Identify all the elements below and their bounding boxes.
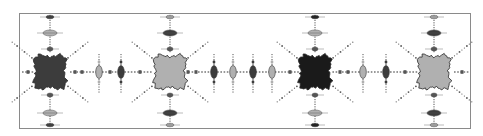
small-blob-stem [272, 57, 273, 58]
small-blob-bud [362, 80, 365, 84]
spike-dot [279, 44, 280, 45]
axis-dot [412, 71, 414, 72]
spike-dot [22, 93, 23, 94]
small-blob-stem [214, 89, 215, 90]
axis-dot [297, 71, 299, 72]
spike-dot [202, 45, 204, 47]
satellite-wing [40, 17, 60, 18]
spike-dot [464, 47, 465, 48]
small-blob-stem [233, 64, 234, 65]
small-blob-stem [233, 92, 234, 93]
spike-dot [72, 53, 73, 54]
axis-dot [374, 71, 376, 72]
satellite-wing [41, 49, 59, 50]
vertical-dot [434, 39, 435, 40]
small-blob-stem [214, 92, 215, 93]
spike-dot [454, 55, 455, 56]
spike-dot [77, 93, 78, 94]
spike-dot [403, 47, 404, 48]
spike-dot [459, 51, 461, 53]
spike-dot [350, 99, 351, 100]
small-blob-2 [118, 66, 125, 79]
spike-dot [139, 95, 140, 96]
small-blob-stem [272, 92, 273, 93]
axis-dot [128, 71, 130, 72]
spike-dot [200, 47, 201, 48]
small-blob-8 [383, 66, 390, 79]
satellite-wing [306, 95, 324, 96]
vertical-dot [170, 27, 171, 28]
small-blob-stem [214, 84, 215, 85]
spike-dot [340, 91, 342, 93]
satellite-wing [306, 49, 324, 50]
vertical-dot [50, 104, 51, 105]
small-blob-stem [214, 54, 215, 55]
vertical-dot [170, 39, 171, 40]
vertical-dot [315, 22, 316, 23]
spike-dot [340, 51, 342, 53]
spike-dot [413, 88, 414, 89]
vertical-dot [50, 121, 51, 122]
small-blob-stem [121, 84, 122, 85]
small-blob-stem [253, 79, 254, 80]
spike-dot [70, 88, 71, 89]
spike-dot [466, 45, 468, 47]
small-blob-bud [98, 80, 101, 84]
spike-dot [85, 44, 86, 45]
axis-dot [131, 71, 133, 72]
axis-dot [400, 71, 402, 72]
vertical-dot [434, 20, 435, 21]
spike-dot [132, 42, 133, 43]
spike-dot [19, 47, 20, 48]
small-blob-stem [363, 54, 364, 55]
spike-dot [415, 85, 417, 87]
spike-dot [459, 91, 461, 93]
small-blob-stem [214, 64, 215, 65]
small-blob-bud [385, 80, 388, 84]
axis-node [195, 70, 198, 74]
vertical-dot [50, 25, 51, 26]
satellite-wing [160, 17, 180, 18]
satellite-wing [40, 125, 60, 126]
small-blob-bud [232, 60, 235, 64]
axis-dot [393, 71, 395, 72]
spike-dot [342, 93, 343, 94]
axis-dot [396, 71, 398, 72]
axis-dot [332, 71, 334, 72]
spike-dot [471, 42, 472, 43]
vertical-dot [434, 104, 435, 105]
vertical-dot [50, 22, 51, 23]
satellite-wing [161, 95, 179, 96]
spike-dot [82, 45, 84, 47]
vertical-dot [315, 27, 316, 28]
satellite-wing [424, 125, 444, 126]
small-blob-stem [233, 89, 234, 90]
axis-node [74, 70, 77, 74]
small-blob-stem [363, 59, 364, 60]
satellite-wing [421, 33, 447, 34]
vertical-dot [434, 99, 435, 100]
spike-dot [31, 85, 33, 87]
vertical-dot [315, 121, 316, 122]
axis-node [289, 70, 292, 74]
spike-dot [192, 90, 193, 91]
small-blob-stem [363, 89, 364, 90]
axis-dot [192, 71, 194, 72]
small-blob-stem [363, 87, 364, 88]
vertical-dot [50, 109, 51, 110]
spike-dot [342, 49, 343, 50]
small-blob-stem [386, 64, 387, 65]
small-blob-stem [386, 84, 387, 85]
vertical-dot [170, 20, 171, 21]
vertical-dot [315, 37, 316, 38]
vertical-dot [170, 22, 171, 23]
spike-dot [72, 90, 73, 91]
spike-dot [410, 90, 411, 91]
spike-dot [22, 49, 23, 50]
vertical-dot [50, 39, 51, 40]
axis-node [109, 70, 112, 74]
small-blob-bud [252, 80, 255, 84]
spike-dot [400, 45, 402, 47]
small-blob-stem [233, 54, 234, 55]
small-blob-bud [232, 80, 235, 84]
